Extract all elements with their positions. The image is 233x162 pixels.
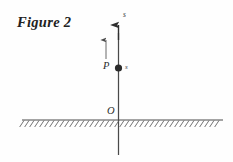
figure-canvas: Figure 2 s P s O [0,0,233,162]
axis-top-label: s [123,11,126,19]
point-p-label: P [103,61,109,72]
origin-label: O [107,106,115,117]
point-marker-p [115,64,122,71]
ground-hatching [20,121,219,128]
figure-title: Figure 2 [17,15,71,30]
point-s-sublabel: s [125,64,128,71]
